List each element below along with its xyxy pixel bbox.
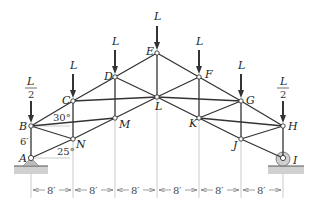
member-hj xyxy=(241,126,283,139)
load-g-label: L xyxy=(237,59,245,72)
member-fl xyxy=(157,77,199,97)
node-label-g: G xyxy=(246,94,255,107)
joint-b xyxy=(29,124,33,128)
load-d-label: L xyxy=(111,35,119,48)
node-label-d: D xyxy=(103,70,113,83)
load-e-label: L xyxy=(153,10,161,23)
load-c-label: L xyxy=(69,59,77,72)
node-label-f: F xyxy=(204,68,213,81)
load-arrow-c-icon xyxy=(70,90,76,98)
member-lk xyxy=(157,97,199,118)
joint-h xyxy=(281,124,285,128)
joint-k xyxy=(197,116,201,120)
load-arrow-d-icon xyxy=(112,66,118,74)
joint-c xyxy=(71,99,75,103)
load-arrow-e-icon xyxy=(154,42,160,50)
joint-g xyxy=(239,99,243,103)
dim-label-3: 8′ xyxy=(131,185,140,196)
node-label-c: C xyxy=(62,94,71,107)
node-label-b: B xyxy=(18,120,27,133)
angle-25-label: 25° xyxy=(57,146,75,157)
load-b-num: L xyxy=(26,75,34,88)
angle-30-label: 30° xyxy=(53,112,71,123)
joint-m xyxy=(113,116,117,120)
joint-d xyxy=(113,75,117,79)
joint-e xyxy=(155,51,159,55)
dim-label-1: 8′ xyxy=(47,185,56,196)
load-h-num: L xyxy=(279,75,287,88)
joint-j xyxy=(239,137,243,141)
height-ab-label: 6′ xyxy=(20,136,29,147)
load-arrow-h-icon xyxy=(280,115,286,123)
member-ml xyxy=(115,97,157,118)
joint-f xyxy=(197,75,201,79)
load-h-den: 2 xyxy=(280,89,286,100)
joint-i xyxy=(280,155,285,160)
node-label-m: M xyxy=(118,118,131,131)
node-label-h: H xyxy=(287,120,298,133)
joint-n xyxy=(71,137,75,141)
truss-diagram: A B C D E F G H I J K L M N 30° 25° 6′ L… xyxy=(0,0,317,212)
load-arrow-b-icon xyxy=(28,115,34,123)
member-dl xyxy=(115,77,157,97)
member-gk xyxy=(199,101,241,118)
node-label-j: J xyxy=(231,139,238,152)
load-arrow-g-icon xyxy=(238,90,244,98)
node-label-i: I xyxy=(292,154,298,167)
node-label-k: K xyxy=(188,117,198,130)
truss-svg: A B C D E F G H I J K L M N 30° 25° 6′ L… xyxy=(0,0,317,212)
ground-right xyxy=(268,166,304,174)
load-b-den: 2 xyxy=(28,89,34,100)
dim-label-4: 8′ xyxy=(173,185,182,196)
joint-a xyxy=(28,155,33,160)
member-ji xyxy=(241,139,283,158)
node-label-n: N xyxy=(75,138,86,151)
node-label-l: L xyxy=(154,100,162,113)
dimension-labels: 8′ 8′ 8′ 8′ 8′ 8′ xyxy=(47,185,266,196)
member-bn xyxy=(31,126,73,139)
dim-label-2: 8′ xyxy=(89,185,98,196)
dim-label-6: 8′ xyxy=(257,185,266,196)
load-arrow-f-icon xyxy=(196,66,202,74)
node-label-e: E xyxy=(145,45,154,58)
load-f-label: L xyxy=(195,35,203,48)
member-ef xyxy=(157,53,199,77)
ground-left xyxy=(14,166,48,174)
joint-l xyxy=(155,95,159,99)
node-label-a: A xyxy=(18,152,27,165)
dim-label-5: 8′ xyxy=(215,185,224,196)
